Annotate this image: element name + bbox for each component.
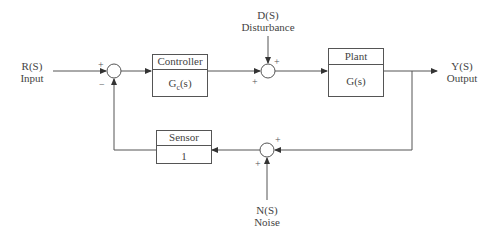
reference-name: Input: [14, 72, 50, 84]
sensor-title: Sensor: [157, 131, 211, 146]
noise-label: N(S) Noise: [247, 204, 287, 228]
controller-block: Controller Gc(s): [152, 54, 208, 97]
plant-transfer-function: G(s): [329, 65, 383, 87]
controller-title: Controller: [153, 55, 207, 70]
plant-block: Plant G(s): [328, 48, 384, 97]
sign-noise-right: +: [275, 135, 281, 145]
disturbance-symbol: D(S): [236, 9, 300, 21]
disturbance-label: D(S) Disturbance: [236, 9, 300, 33]
summing-junction-disturbance: [261, 64, 275, 78]
controller-tf-arg: (s): [180, 77, 192, 89]
sensor-transfer-function: 1: [157, 146, 211, 162]
sensor-block: Sensor 1: [156, 130, 212, 164]
output-name: Output: [442, 72, 482, 84]
plant-title: Plant: [329, 49, 383, 65]
noise-name: Noise: [247, 216, 287, 228]
summing-junction-error: [107, 64, 121, 78]
noise-symbol: N(S): [247, 204, 287, 216]
controller-transfer-function: Gc(s): [153, 70, 207, 92]
output-label: Y(S) Output: [442, 60, 482, 84]
sign-dist-top: +: [274, 57, 280, 67]
sign-dist-left: +: [252, 77, 258, 87]
sign-error-fb: −: [99, 80, 105, 90]
sign-noise-bottom: +: [255, 159, 261, 169]
reference-symbol: R(S): [14, 60, 50, 72]
output-symbol: Y(S): [442, 60, 482, 72]
sign-error-ref: +: [98, 60, 104, 70]
wiring: [0, 0, 503, 236]
reference-label: R(S) Input: [14, 60, 50, 84]
summing-junction-noise: [260, 143, 274, 157]
feedback-return-wire: [114, 79, 156, 150]
disturbance-name: Disturbance: [236, 21, 300, 33]
